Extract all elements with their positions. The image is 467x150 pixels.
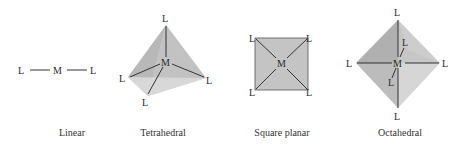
- ligand-label: L: [388, 77, 394, 88]
- ligand-label: L: [206, 75, 212, 86]
- ligand-label: L: [306, 87, 312, 98]
- ligand-label: L: [90, 65, 96, 76]
- octa-face-lower-right: [398, 63, 440, 108]
- geometry-caption: Square planar: [254, 127, 310, 138]
- metal-label: M: [161, 57, 170, 68]
- ligand-label: L: [162, 13, 168, 24]
- tetra-face-bottom: [128, 77, 206, 96]
- ligand-label: L: [142, 97, 148, 108]
- ligand-label: L: [249, 87, 255, 98]
- geometry-caption: Octahedral: [378, 127, 422, 138]
- linear-geometry: L M L Linear: [18, 65, 96, 138]
- ligand-label: L: [18, 65, 24, 76]
- geometry-caption: Tetrahedral: [140, 127, 186, 138]
- tetra-face-back: [128, 25, 206, 78]
- ligand-label: L: [306, 33, 312, 44]
- ligand-label: L: [249, 33, 255, 44]
- coordination-geometries-diagram: L M L Linear L M L L L Tetrahedral L L M: [0, 0, 467, 150]
- ligand-label: L: [119, 73, 125, 84]
- metal-label: M: [53, 65, 62, 76]
- ligand-label: L: [442, 58, 448, 69]
- ligand-label: L: [394, 111, 400, 122]
- ligand-label: L: [346, 58, 352, 69]
- tetrahedral-geometry: L M L L L Tetrahedral: [119, 13, 212, 138]
- metal-label: M: [393, 58, 402, 69]
- ligand-label: L: [394, 7, 400, 18]
- octa-face-upper-left: [356, 20, 398, 63]
- metal-label: M: [277, 58, 286, 69]
- octahedral-geometry: L L L M L L L Octahedral: [346, 7, 448, 138]
- geometry-caption: Linear: [59, 127, 86, 138]
- ligand-label: L: [402, 37, 408, 48]
- square-planar-geometry: L L M L L Square planar: [249, 33, 312, 138]
